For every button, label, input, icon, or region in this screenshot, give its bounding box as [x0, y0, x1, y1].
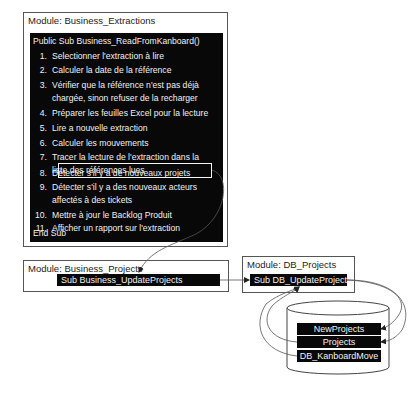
arrow-from-projects — [267, 287, 299, 342]
step-3-cont: chargée, sinon refuser de la recharger — [52, 93, 198, 104]
code-block-read-from-kanboard: Public Sub Business_ReadFromKanboard() 1… — [30, 33, 223, 242]
step-2: 2.Calculer la date de la référence — [30, 65, 171, 76]
sub-db-update-projects: Sub DB_UpdateProjects — [250, 274, 347, 286]
step-number: 5. — [30, 123, 47, 134]
arrow-to-newprojects — [347, 280, 402, 329]
step-number: 8. — [30, 168, 47, 179]
step-number: 1. — [30, 51, 47, 62]
arrow-from-kanboardmove — [260, 287, 299, 356]
step-number: 3. — [30, 80, 47, 91]
end-sub-text: End Sub — [33, 228, 66, 238]
step-5: 5.Lire a nouvelle extraction — [30, 123, 148, 134]
step-9-cont: affectés à des tickets — [52, 195, 132, 206]
step-10: 10.Mettre à jour le Backlog Produit — [30, 210, 172, 221]
sub-signature: Public Sub Business_ReadFromKanboard() — [33, 36, 200, 47]
step-text: Afficher un rapport sur l'extraction — [52, 223, 180, 233]
sub-business-update-projects: Sub Business_UpdateProjects — [57, 274, 220, 286]
table-db-kanboardmove: DB_KanboardMove — [297, 350, 381, 362]
module-title: Module: Business_Projects — [28, 263, 143, 274]
step-number: 7. — [30, 152, 47, 163]
step-text: Calculer la date de la référence — [52, 65, 171, 75]
step-text: Calculer les mouvements — [52, 138, 148, 148]
step-text: Selectionner l'extraction à lire — [52, 51, 164, 61]
step-9: 9.Détecter s'il y a des nouveaux acteurs — [30, 182, 197, 193]
table-projects: Projects — [297, 336, 381, 348]
step-text: Détecter s'il y a des nouveaux acteurs — [52, 182, 197, 192]
module-title: Module: DB_Projects — [247, 259, 336, 270]
step-text: Vérifier que la référence n'est pas déjà — [52, 80, 199, 90]
step-text: Mettre à jour le Backlog Produit — [52, 210, 172, 220]
step-text: Préparer les feuilles Excel pour la lect… — [52, 108, 208, 118]
step-text: Tracer la lecture de l'extraction dans l… — [52, 152, 199, 162]
module-title: Module: Business_Extractions — [28, 15, 155, 26]
step-number: 4. — [30, 108, 47, 119]
table-newprojects: NewProjects — [297, 323, 381, 335]
step-number: 2. — [30, 65, 47, 76]
step-7: 7.Tracer la lecture de l'extraction dans… — [30, 152, 199, 163]
step-1: 1.Selectionner l'extraction à lire — [30, 51, 164, 62]
step-number: 10. — [30, 210, 47, 221]
step-text: Lire a nouvelle extraction — [52, 123, 148, 133]
step-number: 6. — [30, 138, 47, 149]
end-sub-line: End Sub — [33, 228, 66, 239]
step-3: 3.Vérifier que la référence n'est pas dé… — [30, 80, 199, 91]
step-4: 4.Préparer les feuilles Excel pour la le… — [30, 108, 208, 119]
step-number: 9. — [30, 182, 47, 193]
step-8-highlight-box — [58, 163, 212, 178]
step-6: 6.Calculer les mouvements — [30, 138, 148, 149]
